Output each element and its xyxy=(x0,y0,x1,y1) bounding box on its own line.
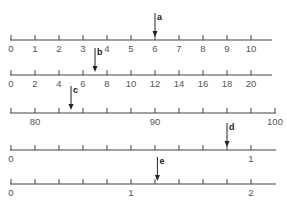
tick-label: 10 xyxy=(126,78,137,89)
tick-label: 7 xyxy=(176,43,181,54)
pointer-arrow: d xyxy=(225,122,235,147)
tick-label: 1 xyxy=(248,153,253,164)
tick-label: 1 xyxy=(128,187,133,198)
arrow-head-icon xyxy=(69,104,74,110)
tick-label: 90 xyxy=(150,116,161,127)
pointer-arrow: e xyxy=(155,156,165,181)
tick-label: 5 xyxy=(128,43,133,54)
arrow-label: a xyxy=(157,12,163,22)
number-line: 012345678910a xyxy=(8,12,272,54)
arrow-label: c xyxy=(73,85,78,95)
tick-label: 2 xyxy=(56,43,61,54)
number-lines-canvas: 012345678910a02468101214161820b8090100c0… xyxy=(0,0,287,209)
tick-label: 100 xyxy=(267,116,283,127)
tick-label: 0 xyxy=(8,153,13,164)
number-line: 8090100c xyxy=(10,85,283,127)
tick-label: 9 xyxy=(224,43,229,54)
tick-label: 20 xyxy=(246,78,257,89)
pointer-arrow: c xyxy=(69,85,79,110)
pointer-arrow: a xyxy=(153,12,164,37)
tick-label: 0 xyxy=(8,43,13,54)
number-line-diagram: 012345678910a02468101214161820b8090100c0… xyxy=(0,0,287,209)
tick-label: 6 xyxy=(80,78,85,89)
tick-label: 0 xyxy=(8,78,13,89)
tick-label: 14 xyxy=(174,78,185,89)
tick-label: 8 xyxy=(200,43,205,54)
tick-label: 2 xyxy=(248,187,253,198)
tick-label: 4 xyxy=(104,43,109,54)
arrow-head-icon xyxy=(93,66,98,72)
pointer-arrow: b xyxy=(93,47,104,72)
number-line: 02468101214161820b xyxy=(8,47,272,89)
tick-label: 6 xyxy=(152,43,157,54)
arrow-head-icon xyxy=(225,141,230,147)
tick-label: 0 xyxy=(8,187,13,198)
tick-label: 2 xyxy=(32,78,37,89)
tick-label: 16 xyxy=(198,78,209,89)
number-line: 012e xyxy=(8,156,276,198)
tick-label: 4 xyxy=(56,78,61,89)
tick-label: 18 xyxy=(222,78,233,89)
tick-label: 1 xyxy=(32,43,37,54)
tick-label: 80 xyxy=(30,116,41,127)
number-line: 01d xyxy=(8,122,276,164)
arrow-label: b xyxy=(97,47,103,57)
arrow-label: e xyxy=(159,156,164,166)
tick-label: 12 xyxy=(150,78,161,89)
arrow-head-icon xyxy=(155,175,160,181)
tick-label: 10 xyxy=(246,43,257,54)
arrow-head-icon xyxy=(153,31,158,37)
arrow-label: d xyxy=(229,122,235,132)
tick-label: 8 xyxy=(104,78,109,89)
tick-label: 3 xyxy=(80,43,85,54)
